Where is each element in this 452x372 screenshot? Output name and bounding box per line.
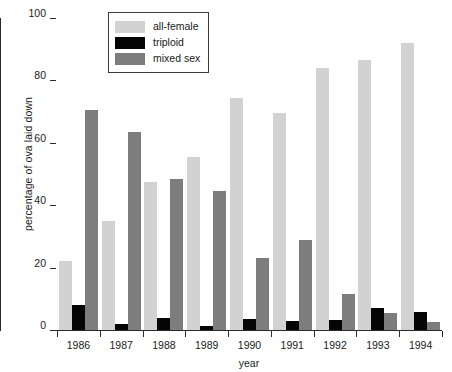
bar bbox=[243, 319, 256, 330]
bar bbox=[170, 179, 183, 330]
x-axis-tick bbox=[185, 331, 186, 337]
y-axis-tick-label: 100 bbox=[4, 8, 46, 19]
legend-item: mixed sex bbox=[115, 51, 200, 66]
legend-item: triploid bbox=[115, 35, 200, 50]
bar bbox=[371, 308, 384, 330]
bar bbox=[115, 324, 128, 330]
bar bbox=[342, 294, 355, 330]
bar bbox=[256, 258, 269, 330]
y-axis-tick bbox=[50, 18, 56, 19]
x-axis-tick bbox=[100, 331, 101, 337]
y-axis-line bbox=[0, 18, 1, 331]
x-axis-group-label: 1987 bbox=[100, 340, 143, 351]
bar bbox=[273, 113, 286, 330]
bar bbox=[414, 312, 427, 330]
bar bbox=[286, 321, 299, 330]
x-axis-tick bbox=[314, 331, 315, 337]
y-axis-tick-label: 0 bbox=[4, 320, 46, 331]
x-axis-tick bbox=[356, 331, 357, 337]
y-axis-tick-label: 80 bbox=[4, 70, 46, 81]
bar bbox=[200, 326, 213, 330]
x-axis-tick bbox=[143, 331, 144, 337]
bar bbox=[59, 261, 72, 330]
legend-item-label: triploid bbox=[153, 37, 184, 48]
bar bbox=[144, 182, 157, 330]
legend-swatch-icon bbox=[115, 53, 145, 65]
x-axis-tick bbox=[271, 331, 272, 337]
x-axis-group-label: 1986 bbox=[57, 340, 100, 351]
bar bbox=[85, 110, 98, 330]
legend-swatch-icon bbox=[115, 37, 145, 49]
bar bbox=[358, 60, 371, 330]
x-axis-group-label: 1989 bbox=[185, 340, 228, 351]
y-axis-tick-label: 40 bbox=[4, 195, 46, 206]
bar bbox=[187, 157, 200, 330]
x-axis-tick bbox=[442, 331, 443, 337]
y-axis-tick-label: 20 bbox=[4, 258, 46, 269]
bar bbox=[72, 305, 85, 330]
bar bbox=[299, 240, 312, 330]
bar bbox=[384, 313, 397, 330]
y-axis-title: percentage of ova laid down bbox=[22, 64, 34, 264]
y-axis-tick bbox=[50, 268, 56, 269]
x-axis-tick bbox=[57, 331, 58, 337]
x-axis-line bbox=[56, 330, 442, 331]
x-axis-title: year bbox=[56, 357, 442, 369]
bar bbox=[329, 320, 342, 330]
bar bbox=[128, 132, 141, 330]
x-axis-group-label: 1988 bbox=[143, 340, 186, 351]
legend-swatch-icon bbox=[115, 21, 145, 33]
y-axis-tick-label: 60 bbox=[4, 133, 46, 144]
x-axis-tick bbox=[399, 331, 400, 337]
legend-item-label: mixed sex bbox=[153, 53, 200, 64]
bar bbox=[213, 191, 226, 330]
x-axis-group-label: 1992 bbox=[314, 340, 357, 351]
legend: all-femaletriploidmixed sex bbox=[108, 12, 209, 73]
legend-item-label: all-female bbox=[153, 21, 199, 32]
y-axis-tick bbox=[50, 143, 56, 144]
y-axis-tick bbox=[50, 205, 56, 206]
x-axis-group-label: 1990 bbox=[228, 340, 271, 351]
bar bbox=[157, 318, 170, 330]
x-axis-group-label: 1993 bbox=[356, 340, 399, 351]
bar-chart: percentage of ova laid down 020406080100… bbox=[0, 0, 452, 372]
y-axis-tick bbox=[50, 80, 56, 81]
legend-item: all-female bbox=[115, 19, 200, 34]
bar bbox=[230, 98, 243, 330]
x-axis-group-label: 1991 bbox=[271, 340, 314, 351]
x-axis-tick bbox=[228, 331, 229, 337]
bar bbox=[102, 221, 115, 330]
bar bbox=[427, 322, 440, 330]
x-axis-group-label: 1994 bbox=[399, 340, 442, 351]
bar bbox=[316, 68, 329, 330]
bar bbox=[401, 43, 414, 330]
